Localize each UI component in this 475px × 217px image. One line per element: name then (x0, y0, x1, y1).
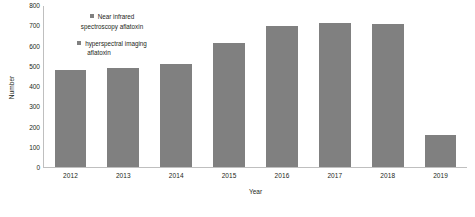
x-axis-tick-label: 2012 (44, 172, 97, 179)
bar (425, 135, 457, 167)
y-axis-tick-label: 400 (14, 84, 40, 91)
bar-slot (203, 6, 256, 167)
bar (372, 24, 404, 167)
y-axis-tick-label: 300 (14, 104, 40, 111)
y-axis-tick-label: 100 (14, 145, 40, 152)
y-axis-tick-label: 500 (14, 64, 40, 71)
y-axis-tick-label: 700 (14, 23, 40, 30)
x-axis-tick-label: 2013 (97, 172, 150, 179)
legend-item[interactable]: hyperspectral imagingaflatoxin (56, 39, 168, 59)
bar (266, 26, 298, 167)
bar (55, 70, 87, 167)
legend-item-label-line2: aflatoxin (56, 48, 142, 58)
legend-item-label-line2: spectroscopy aflatoxin (56, 22, 168, 32)
legend-item-label: hyperspectral imaging (85, 39, 147, 49)
bar (213, 43, 245, 167)
x-axis-tick-label: 2014 (150, 172, 203, 179)
y-axis-tick-label: 200 (14, 124, 40, 131)
bar-slot (308, 6, 361, 167)
bar-slot (361, 6, 414, 167)
x-axis-tick-label: 2016 (256, 172, 309, 179)
x-axis-line (43, 167, 467, 168)
bar-slot (256, 6, 309, 167)
y-axis-tick-label: 600 (14, 43, 40, 50)
bar-chart: Number 0100200300400500600700800 2012201… (0, 0, 475, 217)
y-axis-tick-label: 800 (14, 3, 40, 10)
chart-legend: Near infraredspectroscopy aflatoxinhyper… (56, 12, 168, 65)
x-axis-tick-labels: 20122013201420152016201720182019 (44, 172, 467, 179)
bar (319, 23, 351, 167)
bar-slot (414, 6, 467, 167)
legend-item[interactable]: Near infraredspectroscopy aflatoxin (56, 12, 168, 32)
y-axis-tick-labels: 0100200300400500600700800 (14, 6, 40, 168)
x-axis-tick-label: 2019 (414, 172, 467, 179)
legend-item-label: Near infrared (98, 12, 135, 22)
x-axis-title: Year (44, 188, 467, 195)
x-axis-tick-label: 2015 (203, 172, 256, 179)
x-axis-tick-label: 2018 (361, 172, 414, 179)
bar (107, 68, 139, 167)
x-axis-tick-label: 2017 (308, 172, 361, 179)
bar (160, 64, 192, 167)
legend-swatch-icon (77, 41, 81, 45)
y-axis-tick-label: 0 (14, 165, 40, 172)
legend-swatch-icon (90, 14, 94, 18)
